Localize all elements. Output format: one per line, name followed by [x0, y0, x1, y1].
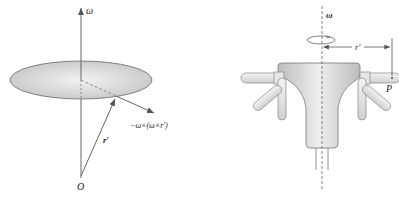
point-p-dot	[391, 77, 393, 79]
omega-label-right: ω	[326, 10, 333, 20]
position-vector-label: r′	[103, 135, 110, 145]
centripetal-label: −ω×(ω×r′)	[130, 121, 168, 130]
diagram-canvas: ω −ω×(ω×r′) r′ O ω	[0, 0, 399, 200]
rotation-arrowhead-icon	[326, 36, 330, 38]
position-vector	[81, 99, 115, 176]
omega-label-left: ω	[86, 5, 93, 16]
left-hanging-arm	[278, 78, 286, 120]
rotation-direction-icon	[307, 36, 335, 44]
origin-label: O	[77, 181, 84, 192]
right-figure: ω r′ P	[241, 6, 399, 190]
point-p-label: P	[385, 83, 392, 94]
governor-body	[278, 63, 360, 148]
left-figure: ω −ω×(ω×r′) r′ O	[10, 5, 168, 192]
right-hanging-arm	[358, 78, 366, 120]
centripetal-vector	[116, 96, 154, 113]
